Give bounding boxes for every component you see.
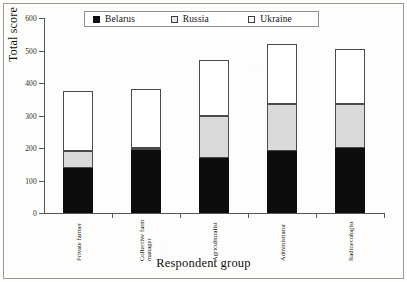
x-axis-title: Respondent group [0,256,407,271]
bar-segment-russia [267,104,297,151]
bar-segment-belarus [63,168,93,214]
bar-segment-belarus [335,148,365,213]
y-axis-tick-label: 400 [25,79,37,88]
bar-segment-belarus [199,158,229,213]
bar-segment-russia [63,151,93,167]
y-axis-tick-label: 300 [25,111,37,120]
bar-segment-belarus [267,151,297,213]
y-axis-tick [39,83,44,84]
y-axis-tick [39,181,44,182]
bar-4[interactable] [267,44,297,213]
x-axis-tick [248,213,249,218]
y-axis-tick [39,148,44,149]
x-axis-tick [316,213,317,218]
y-axis-tick-label: 0 [33,209,37,218]
bar-segment-ukraine [131,89,161,148]
bar-3[interactable] [199,60,229,213]
bar-segment-ukraine [335,49,365,104]
y-axis-tick [39,213,44,214]
bar-segment-ukraine [267,44,297,104]
bar-segment-belarus [131,150,161,213]
y-axis-tick-label: 100 [25,176,37,185]
y-axis-tick [39,51,44,52]
figure-container: Belarus Russia Ukraine 01002003004005006… [0,0,407,282]
y-axis-tick [39,18,44,19]
x-axis-tick [384,213,385,218]
plot-area: 0100200300400500600 [44,18,384,213]
bar-segment-russia [199,116,229,158]
y-axis-tick-label: 500 [25,46,37,55]
y-axis-tick [39,116,44,117]
y-axis-tick-label: 200 [25,144,37,153]
y-axis-tick-label: 600 [25,14,37,23]
bar-1[interactable] [63,91,93,213]
x-axis-tick [112,213,113,218]
bar-segment-ukraine [199,60,229,115]
bar-5[interactable] [335,49,365,213]
bar-2[interactable] [131,89,161,213]
bar-segment-russia [335,104,365,148]
x-axis-line [44,213,385,214]
x-axis-tick [180,213,181,218]
bar-segment-ukraine [63,91,93,151]
y-axis-title: Total score [6,7,21,62]
